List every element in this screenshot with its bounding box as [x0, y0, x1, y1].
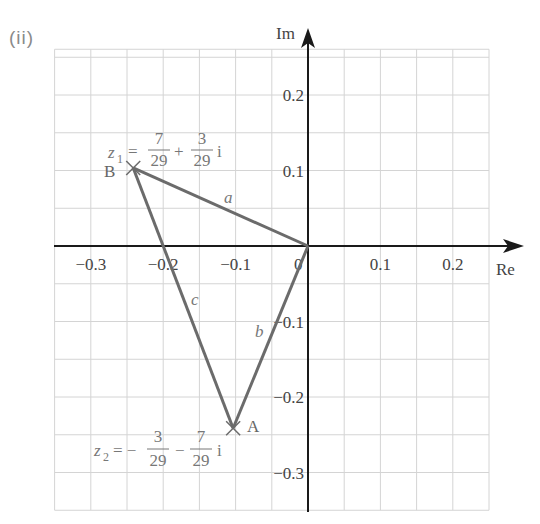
side-a-label: a [224, 188, 233, 207]
argand-diagram: −0.3−0.2−0.10.10.2 0.20.1−0.1−0.2−0.3 Re… [0, 0, 540, 524]
z1-equals: = [128, 142, 138, 161]
y-tick-label: 0.1 [283, 162, 304, 181]
point-a-label: A [247, 417, 260, 436]
z1-frac2-den: 29 [194, 151, 211, 170]
z1-unit: i [217, 142, 222, 161]
z1-frac2-num: 3 [198, 129, 207, 148]
z2-frac1-num: 3 [154, 427, 163, 446]
x-tick-label: 0.2 [442, 255, 463, 274]
z2-frac2-num: 7 [197, 427, 206, 446]
z1-equation: z 1 = 7 29 + 3 29 i [107, 129, 222, 170]
y-axis-label: Im [276, 24, 295, 43]
z2-frac1-den: 29 [150, 451, 167, 470]
z1-op: + [174, 142, 184, 161]
y-tick-label: 0.2 [283, 86, 304, 105]
side-b-label: b [255, 322, 264, 341]
z1-frac1-num: 7 [155, 129, 164, 148]
x-tick-label: −0.3 [75, 255, 106, 274]
x-tick-label: −0.1 [220, 255, 251, 274]
z2-equation: z 2 = − 3 29 − 7 29 i [93, 427, 222, 470]
point-b-cross-icon [126, 161, 140, 175]
x-axis-label: Re [496, 260, 515, 279]
x-tick-labels: −0.3−0.2−0.10.10.2 [75, 255, 463, 274]
z1-subscript: 1 [117, 152, 123, 166]
point-a-cross-icon [226, 421, 240, 435]
z1-symbol: z [107, 143, 115, 162]
y-tick-label: −0.3 [273, 464, 304, 483]
x-tick-label: 0.1 [370, 255, 391, 274]
z2-unit: i [217, 441, 222, 460]
side-c-label: c [191, 290, 199, 309]
z2-op: − [175, 441, 185, 460]
z2-symbol: z [93, 441, 101, 460]
z2-equals: = − [113, 441, 136, 460]
point-b-label: B [104, 162, 115, 181]
y-tick-label: −0.2 [273, 388, 304, 407]
z2-frac2-den: 29 [193, 451, 210, 470]
z1-frac1-den: 29 [151, 151, 168, 170]
z2-subscript: 2 [103, 450, 109, 464]
